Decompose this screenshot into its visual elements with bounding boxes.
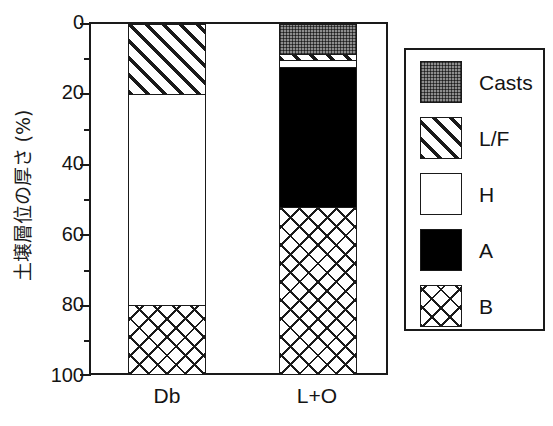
legend-swatch-casts-icon bbox=[420, 61, 462, 103]
y-tick-major-0 bbox=[80, 23, 91, 25]
y-tick-label-0: 0 bbox=[28, 12, 84, 32]
legend-swatch-h-icon bbox=[420, 173, 462, 215]
bar-lo-segment-casts[interactable] bbox=[279, 24, 357, 54]
y-tick-major-40 bbox=[80, 164, 91, 166]
legend-label-b: B bbox=[479, 296, 493, 317]
x-axis-label-db: Db bbox=[88, 384, 246, 408]
bar-l-plus-o[interactable] bbox=[279, 24, 357, 375]
y-tick-major-80 bbox=[80, 305, 91, 307]
y-tick-label-40: 40 bbox=[28, 153, 84, 173]
bar-db-segment-lf[interactable] bbox=[128, 24, 206, 94]
legend-item-lf[interactable]: L/F bbox=[420, 116, 535, 160]
x-axis-label-l-plus-o: L+O bbox=[238, 384, 396, 408]
legend-swatch-lf-icon bbox=[420, 117, 462, 159]
y-tick-minor-30 bbox=[84, 129, 91, 131]
y-tick-minor-10 bbox=[84, 58, 91, 60]
plot-inner bbox=[91, 24, 386, 373]
y-axis-tick-labels: 0 20 40 60 80 100 bbox=[26, 0, 84, 426]
bar-lo-segment-a[interactable] bbox=[279, 67, 357, 207]
y-tick-label-60: 60 bbox=[28, 224, 84, 244]
legend-item-h[interactable]: H bbox=[420, 172, 535, 216]
legend-label-h: H bbox=[479, 184, 494, 205]
legend-item-b[interactable]: B bbox=[420, 284, 535, 328]
bar-lo-segment-b[interactable] bbox=[279, 207, 357, 375]
stacked-bar-chart-figure: 土壌層位の厚さ (%) 0 20 40 60 80 100 bbox=[0, 0, 553, 426]
legend-box: Casts L/F H A B bbox=[404, 48, 545, 331]
y-tick-minor-50 bbox=[84, 199, 91, 201]
y-tick-label-80: 80 bbox=[28, 294, 84, 314]
bar-db[interactable] bbox=[128, 24, 206, 375]
y-tick-minor-90 bbox=[84, 340, 91, 342]
legend-swatch-b-icon bbox=[420, 285, 462, 327]
y-tick-major-100 bbox=[80, 374, 91, 376]
legend-swatch-a-icon bbox=[420, 229, 462, 271]
bar-db-segment-h[interactable] bbox=[128, 94, 206, 305]
y-tick-major-20 bbox=[80, 93, 91, 95]
y-tick-label-100: 100 bbox=[28, 365, 84, 385]
legend-label-a: A bbox=[479, 240, 493, 261]
legend-item-a[interactable]: A bbox=[420, 228, 535, 272]
plot-area bbox=[89, 22, 388, 375]
legend-item-casts[interactable]: Casts bbox=[420, 60, 535, 104]
legend-label-lf: L/F bbox=[479, 128, 509, 149]
bar-db-segment-b[interactable] bbox=[128, 305, 206, 375]
legend-label-casts: Casts bbox=[479, 72, 533, 93]
y-tick-label-20: 20 bbox=[28, 82, 84, 102]
y-tick-minor-70 bbox=[84, 270, 91, 272]
bar-lo-segment-h[interactable] bbox=[279, 60, 357, 67]
y-tick-major-60 bbox=[80, 234, 91, 236]
